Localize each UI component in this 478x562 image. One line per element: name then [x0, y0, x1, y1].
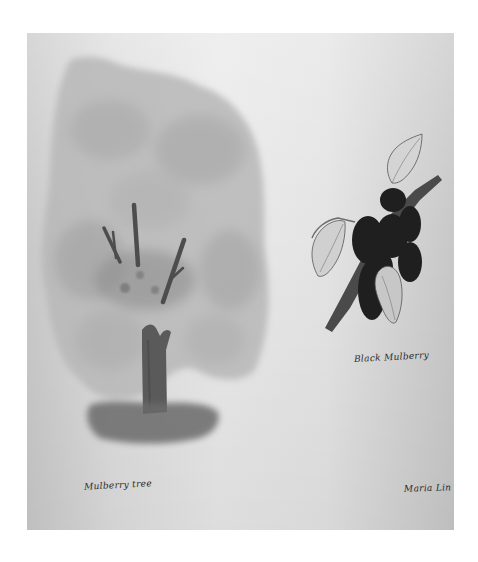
mulberry-branch — [312, 134, 442, 332]
ground-shadow — [87, 402, 219, 444]
illustration — [0, 0, 478, 562]
artist-signature: Maria Lin — [404, 482, 452, 494]
